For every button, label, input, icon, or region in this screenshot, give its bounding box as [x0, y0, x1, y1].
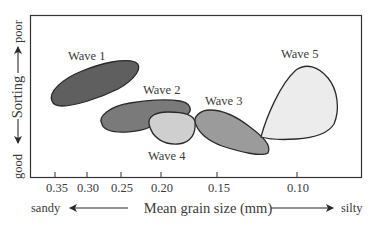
- x-tick-label: 0.20: [151, 181, 173, 195]
- x-tick-label: 0.35: [46, 181, 68, 195]
- wave-2-label: Wave 2: [143, 83, 181, 97]
- y-axis-title: Sorting: [9, 76, 25, 119]
- y-axis-label-group: good Sorting poor: [9, 19, 25, 179]
- y-poor-label: poor: [11, 19, 25, 43]
- wave-3-region: [195, 110, 269, 154]
- wave-5-label: Wave 5: [281, 47, 319, 61]
- x-tick-label: 0.30: [77, 181, 99, 195]
- wave-4-label: Wave 4: [148, 149, 186, 163]
- y-good-label: good: [11, 153, 25, 179]
- x-axis-ticks: [55, 172, 297, 177]
- wave-3-label: Wave 3: [205, 94, 243, 108]
- x-sandy-label: sandy: [31, 201, 61, 215]
- sorting-grain-size-diagram: 0.35 0.30 0.25 0.20 0.15 0.10 Wave 1 Wav…: [0, 0, 374, 226]
- wave-4-region: [149, 112, 195, 144]
- x-tick-label: 0.25: [111, 181, 133, 195]
- wave-1-region: [51, 61, 138, 106]
- x-silty-label: silty: [341, 201, 363, 215]
- wave-5-region: [261, 66, 337, 139]
- x-tick-label: 0.15: [208, 181, 230, 195]
- x-axis-title: Mean grain size (mm): [144, 200, 273, 217]
- wave-1-label: Wave 1: [68, 49, 106, 63]
- x-tick-label: 0.10: [287, 181, 309, 195]
